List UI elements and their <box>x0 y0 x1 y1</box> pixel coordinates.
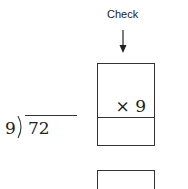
multiplier: × 9 <box>116 96 146 116</box>
divisor: 9 <box>5 118 16 138</box>
division-bracket <box>17 115 25 139</box>
lower-answer-box[interactable] <box>97 170 155 189</box>
check-label: Check <box>107 8 138 20</box>
long-division-problem: 9 72 <box>5 112 75 140</box>
arrow-down-icon <box>118 30 128 54</box>
check-multiplication-box[interactable]: × 9 <box>97 63 155 146</box>
dividend: 72 <box>28 118 50 138</box>
division-bar <box>25 115 77 116</box>
product-line <box>98 117 154 118</box>
